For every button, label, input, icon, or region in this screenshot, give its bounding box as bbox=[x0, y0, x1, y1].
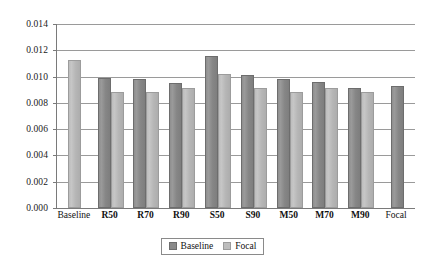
x-tick-label-m50: M50 bbox=[271, 210, 307, 220]
bar-group bbox=[379, 24, 415, 208]
legend: BaselineFocal bbox=[0, 238, 425, 255]
legend-swatch-icon bbox=[223, 242, 231, 250]
bar-group bbox=[272, 24, 308, 208]
x-tick-label-r90: R90 bbox=[163, 210, 199, 220]
y-tick-label: 0.010 bbox=[26, 72, 48, 82]
bar-chart: 0.0140.0120.0100.0080.0060.0040.0020.000… bbox=[0, 0, 425, 270]
bar-baseline-m50 bbox=[277, 79, 290, 208]
x-tick-label-r50: R50 bbox=[92, 210, 128, 220]
bar-group bbox=[343, 24, 379, 208]
legend-item-focal[interactable]: Focal bbox=[223, 241, 256, 251]
x-tick-label-baseline: Baseline bbox=[56, 210, 92, 220]
x-tick-label-r70: R70 bbox=[128, 210, 164, 220]
bar-focal-m70 bbox=[325, 88, 338, 208]
legend-box: BaselineFocal bbox=[161, 238, 265, 255]
x-tick-label-m70: M70 bbox=[307, 210, 343, 220]
x-tick-label-s50: S50 bbox=[199, 210, 235, 220]
bar-focal-r50 bbox=[111, 92, 124, 208]
bar-baseline-r90 bbox=[169, 83, 182, 208]
bar-group bbox=[308, 24, 344, 208]
y-tick-label: 0.008 bbox=[26, 98, 48, 108]
bars-layer bbox=[57, 24, 415, 208]
y-tick-label: 0.006 bbox=[26, 124, 48, 134]
bar-focal-s50 bbox=[218, 74, 231, 208]
bar-baseline-r70 bbox=[133, 79, 146, 208]
bar-group bbox=[200, 24, 236, 208]
plot-area bbox=[56, 24, 415, 209]
y-tick-label: 0.002 bbox=[26, 177, 48, 187]
legend-label: Baseline bbox=[181, 241, 214, 251]
bar-focal-m90 bbox=[361, 92, 374, 208]
x-tick-label-focal: Focal bbox=[378, 210, 414, 220]
bar-focal-r90 bbox=[182, 88, 195, 208]
y-tick-label: 0.012 bbox=[26, 45, 48, 55]
bar-baseline-m70 bbox=[312, 82, 325, 208]
bar-baseline-m90 bbox=[348, 88, 361, 208]
bar-group bbox=[164, 24, 200, 208]
bar-group bbox=[129, 24, 165, 208]
legend-item-baseline[interactable]: Baseline bbox=[169, 241, 214, 251]
bar-baseline-s50 bbox=[205, 56, 218, 208]
bar-baseline-r50 bbox=[98, 78, 111, 208]
bar-focal-s90 bbox=[254, 88, 267, 208]
y-tick-label: 0.004 bbox=[26, 150, 48, 160]
x-tick-label-s90: S90 bbox=[235, 210, 271, 220]
bar-focal-m50 bbox=[290, 92, 303, 208]
y-tick-label: 0.014 bbox=[26, 19, 48, 29]
bar-baseline-focal bbox=[391, 86, 404, 208]
bar-group bbox=[236, 24, 272, 208]
bar-focal-r70 bbox=[146, 92, 159, 208]
bar-group bbox=[93, 24, 129, 208]
bar-baseline-s90 bbox=[241, 75, 254, 208]
x-axis-tick-labels: BaselineR50R70R90S50S90M50M70M90Focal bbox=[56, 210, 414, 220]
bar-focal-baseline bbox=[68, 60, 81, 209]
y-tickmark bbox=[53, 208, 57, 209]
y-tick-label: 0.000 bbox=[26, 203, 48, 213]
y-axis-tick-labels: 0.0140.0120.0100.0080.0060.0040.0020.000 bbox=[0, 0, 52, 270]
legend-label: Focal bbox=[235, 241, 256, 251]
x-tick-label-m90: M90 bbox=[342, 210, 378, 220]
bar-group bbox=[57, 24, 93, 208]
legend-swatch-icon bbox=[169, 242, 177, 250]
